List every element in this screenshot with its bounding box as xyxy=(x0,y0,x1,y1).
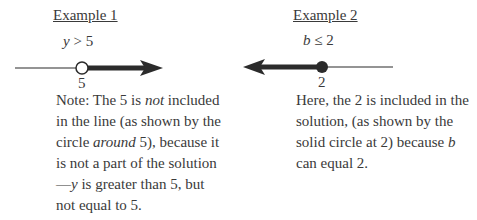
value: 5 xyxy=(86,33,94,49)
example-2-title: Example 2 xyxy=(293,7,358,24)
note-text: Here, the 2 is included in the solution,… xyxy=(296,92,469,150)
example-2-point-label: 2 xyxy=(318,74,326,91)
note-emphasis: b xyxy=(448,134,456,150)
example-2-inequality: b ≤ 2 xyxy=(303,32,334,49)
operator: ≤ xyxy=(311,32,327,48)
example-1-note: Note: The 5 is not included in the line … xyxy=(56,90,226,216)
note-text: is greater than 5, but not equal to 5. xyxy=(56,176,204,213)
note-text: Note: The 5 is xyxy=(56,92,145,108)
example-1-title: Example 1 xyxy=(53,7,118,24)
note-emphasis: around xyxy=(93,134,136,150)
solid-circle-icon xyxy=(316,61,328,73)
variable: b xyxy=(303,32,311,48)
number-line-example-1 xyxy=(15,60,163,76)
value: 2 xyxy=(326,32,334,48)
example-2-note: Here, the 2 is included in the solution,… xyxy=(296,90,474,174)
open-circle-icon xyxy=(76,62,88,74)
operator: > xyxy=(70,33,86,49)
note-text: can equal 2. xyxy=(296,155,368,171)
variable: y xyxy=(63,33,70,49)
example-1-inequality: y > 5 xyxy=(63,33,93,50)
note-emphasis: not xyxy=(145,92,164,108)
number-line-example-2 xyxy=(243,59,393,75)
note-emphasis: y xyxy=(71,176,78,192)
